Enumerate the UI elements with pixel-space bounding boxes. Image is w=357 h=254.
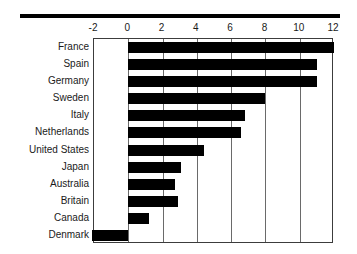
bar-row <box>94 124 332 141</box>
category-label: France <box>0 38 89 55</box>
category-label: Denmark <box>0 226 89 243</box>
bar <box>128 213 149 224</box>
x-tick-label: 0 <box>125 21 131 35</box>
x-tick-label: 4 <box>193 21 199 35</box>
bar <box>128 59 317 70</box>
category-label: Spain <box>0 55 89 72</box>
x-tick-label: -2 <box>89 21 98 35</box>
bar <box>128 179 174 190</box>
category-label: Canada <box>0 209 89 226</box>
bar <box>128 93 265 104</box>
category-label: Australia <box>0 175 89 192</box>
x-tick-label: 12 <box>327 21 338 35</box>
x-tick-label: 2 <box>159 21 165 35</box>
plot-area <box>93 38 333 243</box>
bar-row <box>94 90 332 107</box>
bar-row <box>94 73 332 90</box>
bar-row <box>94 176 332 193</box>
bar <box>92 230 128 241</box>
bar-row <box>94 39 332 56</box>
bar <box>128 42 334 53</box>
x-tick-label: 8 <box>262 21 268 35</box>
x-tick-label: 6 <box>227 21 233 35</box>
category-label: Britain <box>0 192 89 209</box>
bar-row <box>94 227 332 244</box>
bar-row <box>94 56 332 73</box>
category-label: Japan <box>0 158 89 175</box>
category-axis-labels: FranceSpainGermanySwedenItalyNetherlands… <box>0 38 89 243</box>
bar <box>128 110 245 121</box>
category-label: Sweden <box>0 89 89 106</box>
bar-row <box>94 107 332 124</box>
category-label: Germany <box>0 72 89 89</box>
x-axis-tick-labels: -2024681012 <box>0 21 357 35</box>
bar <box>128 196 178 207</box>
bar <box>128 162 181 173</box>
top-rule-divider <box>20 14 340 18</box>
bar <box>128 145 203 156</box>
bar-row <box>94 142 332 159</box>
category-label: Netherlands <box>0 123 89 140</box>
bar-chart-figure: -2024681012 FranceSpainGermanySwedenItal… <box>0 0 357 254</box>
bar-series <box>94 39 332 242</box>
bar-row <box>94 159 332 176</box>
category-label: United States <box>0 141 89 158</box>
category-label: Italy <box>0 106 89 123</box>
bar <box>128 127 241 138</box>
x-tick-label: 10 <box>293 21 304 35</box>
bar-row <box>94 193 332 210</box>
bar-row <box>94 210 332 227</box>
bar <box>128 76 317 87</box>
